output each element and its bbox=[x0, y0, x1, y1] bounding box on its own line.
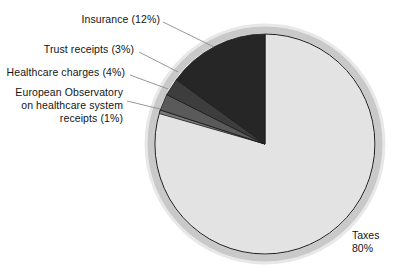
pie-label-taxes-name: Taxes bbox=[352, 229, 379, 242]
pie-label-european-observatory-line3: receipts (1%) bbox=[0, 112, 123, 125]
pie-chart-figure: Insurance (12%) Trust receipts (3%) Heal… bbox=[0, 0, 408, 273]
pie-label-taxes: Taxes 80% bbox=[352, 229, 379, 255]
pie-label-trust-receipts: Trust receipts (3%) bbox=[44, 43, 134, 56]
pie-label-european-observatory-line1: European Observatory bbox=[0, 86, 123, 99]
pie-label-healthcare-charges: Healthcare charges (4%) bbox=[7, 66, 125, 79]
pie-chart-canvas bbox=[0, 0, 408, 273]
leader-line-trust-receipts bbox=[139, 52, 178, 72]
pie-label-european-observatory-line2: on healthcare system bbox=[0, 99, 123, 112]
pie-label-insurance: Insurance (12%) bbox=[81, 13, 160, 26]
pie-label-taxes-value: 80% bbox=[352, 242, 379, 255]
leader-line-insurance bbox=[163, 22, 214, 47]
pie-label-european-observatory: European Observatory on healthcare syste… bbox=[0, 86, 123, 125]
